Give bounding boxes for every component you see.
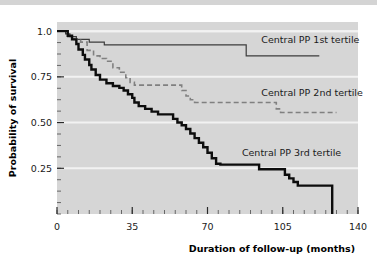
- series-label-3: Central PP 3rd tertile: [242, 147, 341, 158]
- survival-curve-chart: 0.250.500.751.0 03570105140 Central PP 1…: [0, 0, 377, 264]
- x-tick-label: 105: [274, 221, 292, 232]
- x-axis-title: Duration of follow-up (months): [189, 243, 355, 254]
- x-tick-label: 140: [349, 221, 367, 232]
- x-tick-label: 70: [201, 221, 213, 232]
- y-axis-title: Probability of survival: [7, 59, 18, 177]
- y-tick-label: 0.50: [31, 117, 52, 128]
- y-axis-tick-labels: 0.250.500.751.0: [31, 26, 52, 174]
- y-tick-label: 0.75: [31, 71, 52, 82]
- series-label-1: Central PP 1st tertile: [261, 34, 359, 45]
- x-tick-label: 35: [126, 221, 138, 232]
- figure-container: 0.250.500.751.0 03570105140 Central PP 1…: [0, 0, 377, 264]
- y-tick-label: 0.25: [31, 163, 52, 174]
- x-axis-tick-labels: 03570105140: [54, 221, 367, 232]
- y-tick-label: 1.0: [37, 26, 52, 37]
- series-label-2: Central PP 2nd tertile: [261, 87, 363, 98]
- x-tick-label: 0: [54, 221, 60, 232]
